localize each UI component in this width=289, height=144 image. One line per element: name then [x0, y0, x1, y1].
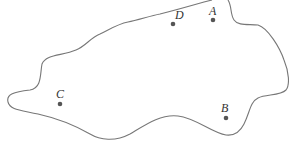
point-d-dot [171, 22, 176, 27]
point-a-label: A [208, 4, 217, 18]
point-c-dot [58, 102, 63, 107]
point-b: B [221, 101, 229, 120]
point-c: C [56, 87, 65, 106]
point-d-label: D [174, 8, 184, 22]
point-c-label: C [56, 87, 65, 101]
point-b-dot [224, 116, 229, 121]
point-a: A [208, 4, 217, 22]
region-diagram: A B C D [0, 0, 289, 144]
diagram-canvas: A B C D [0, 0, 289, 144]
point-b-label: B [221, 101, 229, 115]
region-outline [8, 0, 289, 139]
point-a-dot [211, 18, 216, 23]
